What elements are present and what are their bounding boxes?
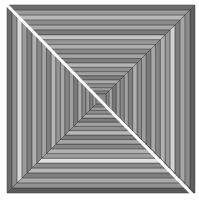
ring-band-left <box>7 5 12 193</box>
ring-band-bottom <box>32 163 170 168</box>
ring-band-right <box>185 10 190 188</box>
ring-band-right <box>116 80 120 118</box>
ring-band-bottom <box>56 140 146 145</box>
ring-band-right <box>128 67 132 130</box>
ring-band-left <box>12 10 17 188</box>
ring-band-right <box>120 76 124 122</box>
ring-band-top <box>74 72 129 76</box>
ring-band-right <box>180 15 185 183</box>
ring-band-bottom <box>69 126 132 130</box>
ring-band-right <box>112 84 116 114</box>
ring-band-top <box>27 25 175 30</box>
ring-band-top <box>47 45 156 50</box>
ring-band-top <box>56 54 146 59</box>
ring-band-left <box>37 35 42 163</box>
ring-band-bottom <box>7 188 195 193</box>
ring-band-bottom <box>60 135 141 140</box>
ring-band-top <box>60 58 141 63</box>
ring-band-left <box>27 25 32 173</box>
ring-band-right <box>146 49 151 149</box>
ring-band-right <box>155 40 160 158</box>
ring-band-right <box>190 5 195 193</box>
ring-band-bottom <box>51 144 151 149</box>
ring-band-right <box>175 20 180 178</box>
ring-band-right <box>133 63 137 135</box>
ring-band-top <box>22 20 180 25</box>
ring-band-right <box>142 54 147 144</box>
ring-band-top <box>51 49 151 54</box>
ring-band-top <box>78 76 124 80</box>
ring-band-bottom <box>37 158 165 163</box>
ring-band-right <box>124 72 128 127</box>
ring-band-left <box>69 67 73 130</box>
ring-band-bottom <box>22 173 180 178</box>
ring-band-top <box>32 30 170 35</box>
ring-band-left <box>32 30 37 168</box>
ring-band-top <box>17 15 185 20</box>
ring-band-right <box>151 45 156 154</box>
ring-band-left <box>56 54 61 144</box>
ring-band-top <box>7 5 195 10</box>
ring-band-bottom <box>17 178 185 183</box>
ring-band-top <box>69 67 132 71</box>
ring-band-left <box>74 72 78 127</box>
ring-band-bottom <box>27 168 175 173</box>
ring-band-bottom <box>42 153 160 158</box>
ring-band-bottom <box>65 131 137 135</box>
ring-band-right <box>165 30 170 168</box>
ring-band-bottom <box>47 149 156 154</box>
ring-band-top <box>12 10 190 15</box>
ring-band-left <box>17 15 22 183</box>
ring-band-top <box>86 84 116 88</box>
ring-band-right <box>109 88 112 111</box>
ring-band-right <box>170 25 175 173</box>
ring-band-top <box>42 40 160 45</box>
ring-band-bottom <box>74 122 129 126</box>
ring-band-right <box>137 58 142 139</box>
ring-band-left <box>22 20 27 178</box>
tunnel-illusion-image <box>0 0 199 202</box>
ring-band-left <box>65 63 69 135</box>
ring-band-right <box>160 35 165 163</box>
ring-band-left <box>47 45 52 154</box>
ring-band-left <box>42 40 47 158</box>
ring-band-left <box>60 58 65 139</box>
ring-band-bottom <box>12 183 190 188</box>
ring-band-top <box>82 80 120 84</box>
ring-band-top <box>65 63 137 67</box>
ring-band-top <box>90 88 113 91</box>
ring-band-left <box>51 49 56 149</box>
ring-band-top <box>37 35 165 40</box>
